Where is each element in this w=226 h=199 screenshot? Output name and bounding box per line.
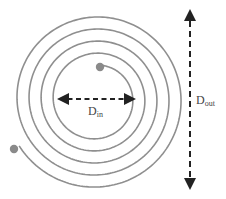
spiral-coil-diagram: Din Dout — [0, 0, 226, 199]
outer-terminal-dot — [10, 145, 18, 153]
spiral-coil — [17, 17, 181, 187]
outer-diameter-label: Dout — [196, 93, 216, 108]
inner-terminal-dot — [96, 63, 104, 71]
inner-diameter-label: Din — [88, 104, 103, 119]
